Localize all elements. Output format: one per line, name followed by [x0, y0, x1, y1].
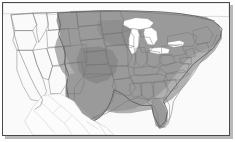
map-frame — [2, 2, 230, 136]
us-distribution-map — [3, 3, 229, 135]
screenshot-root — [0, 0, 235, 142]
